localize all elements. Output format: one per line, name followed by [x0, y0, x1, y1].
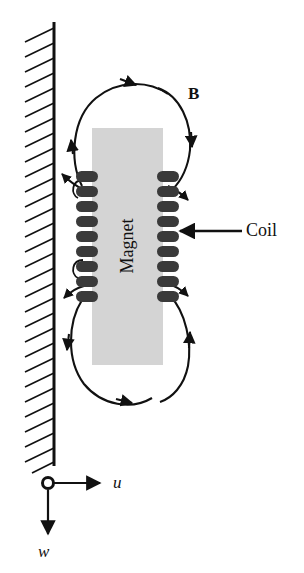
coil-windings-left — [76, 171, 98, 302]
magnet-coil-diagram: Magnet Coil B u w — [0, 0, 304, 573]
field-arrow-upper-right — [191, 132, 192, 147]
coordinate-axes — [43, 478, 101, 535]
field-arrow-upper-left — [71, 140, 73, 154]
fixed-wall — [25, 22, 54, 473]
field-arrow-bottom — [116, 399, 132, 403]
field-label-b: B — [188, 85, 199, 102]
coil-windings-right — [157, 171, 179, 302]
coil-label: Coil — [246, 221, 277, 239]
wall-hatching — [25, 28, 54, 473]
axes-origin-marker — [43, 478, 54, 489]
field-arrow-lower-left — [67, 334, 69, 350]
magnet-label: Magnet — [118, 219, 136, 274]
axis-label-w: w — [38, 543, 49, 560]
axis-label-u: u — [113, 474, 122, 491]
field-arrow-lower-right — [189, 332, 190, 348]
diagram-canvas — [0, 0, 304, 573]
field-line-lower-right — [160, 296, 189, 402]
